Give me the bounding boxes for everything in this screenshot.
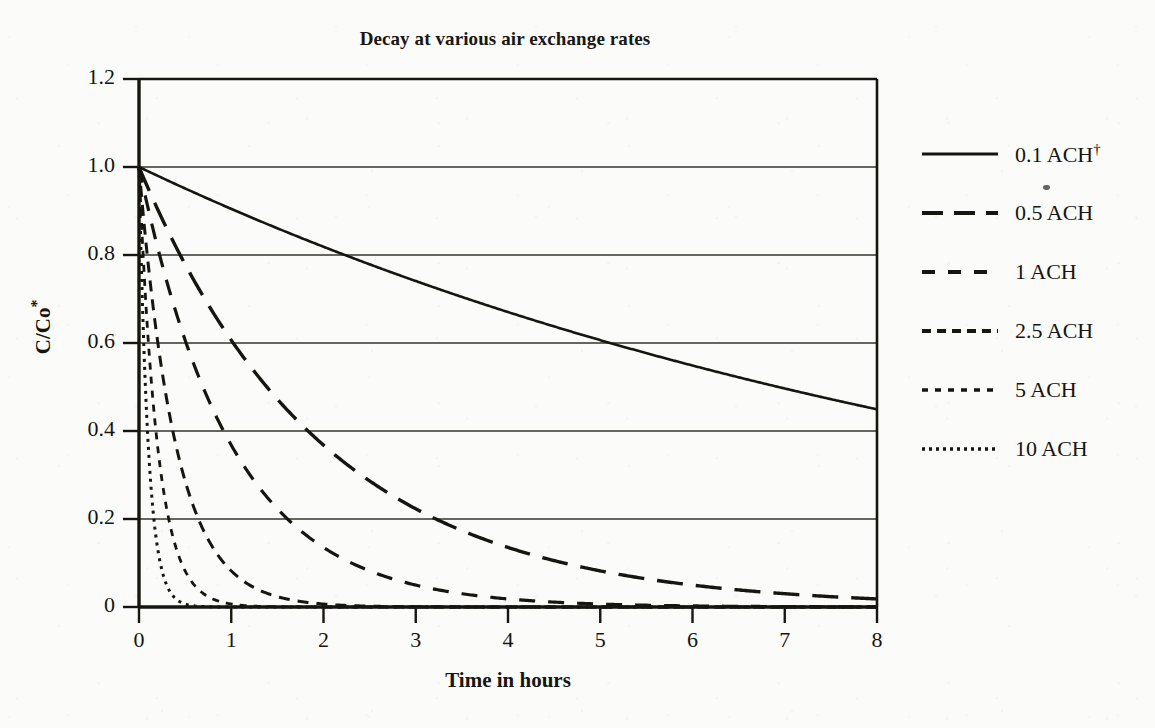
y-axis-tick-label: 1.2 — [45, 64, 115, 90]
legend-line-sample-2-5-ach — [922, 327, 998, 335]
decay-curve-5-ach — [139, 167, 877, 607]
y-tick-marks-group — [123, 79, 139, 607]
legend-line-sample-1-ach — [922, 268, 998, 276]
y-axis-tick-label: 0 — [45, 592, 115, 618]
x-axis-tick-label: 0 — [119, 627, 159, 653]
decay-curve-10-ach — [139, 167, 877, 607]
legend-item-label: 10 ACH — [1015, 436, 1088, 462]
legend-item-dagger: † — [1093, 141, 1100, 157]
legend-item[interactable]: 5 ACH — [915, 372, 1150, 431]
x-tick-marks-group — [139, 607, 877, 623]
legend-item[interactable]: 2.5 ACH — [915, 313, 1150, 372]
legend-item[interactable]: 10 ACH — [915, 431, 1150, 490]
y-axis-tick-label: 0.4 — [45, 416, 115, 442]
y-axis-title-superscript: * — [28, 300, 45, 308]
x-axis-tick-label: 6 — [673, 627, 713, 653]
legend-item-label: 0.5 ACH — [1015, 200, 1093, 226]
legend-line-sample-0-5-ach — [922, 209, 998, 217]
legend-line-sample-10-ach — [922, 445, 998, 453]
legend-item-label: 5 ACH — [1015, 377, 1077, 403]
decay-curves-group — [139, 167, 877, 607]
y-axis-title: C/Co* — [28, 257, 56, 397]
legend-item[interactable]: 1 ACH — [915, 254, 1150, 313]
decay-curve-1-ach — [139, 167, 877, 607]
x-axis-tick-label: 2 — [304, 627, 344, 653]
legend-line-sample-0-1-ach — [922, 150, 998, 158]
chart-legend: 0.1 ACH†0.5 ACH1 ACH2.5 ACH5 ACH10 ACH — [915, 136, 1150, 490]
chart-page: Decay at various air exchange rates 1.21… — [0, 0, 1155, 728]
x-axis-tick-label: 7 — [765, 627, 805, 653]
x-axis-tick-label: 1 — [211, 627, 251, 653]
legend-item[interactable]: 0.1 ACH† — [915, 136, 1150, 195]
decay-curve-0.1-ach — [139, 167, 877, 409]
x-axis-tick-label: 5 — [580, 627, 620, 653]
legend-item-label: 0.1 ACH† — [1015, 141, 1101, 168]
y-axis-title-text: C/Co — [31, 308, 55, 355]
x-axis-title: Time in hours — [139, 668, 877, 693]
legend-line-sample-5-ach — [922, 386, 998, 394]
x-axis-tick-label: 8 — [857, 627, 897, 653]
x-axis-tick-label: 4 — [488, 627, 528, 653]
legend-item-label: 1 ACH — [1015, 259, 1077, 285]
legend-item-label: 2.5 ACH — [1015, 318, 1093, 344]
decay-curve-2.5-ach — [139, 167, 877, 607]
gridlines-group — [139, 167, 877, 519]
y-axis-tick-label: 1.0 — [45, 152, 115, 178]
x-axis-tick-label: 3 — [396, 627, 436, 653]
legend-item[interactable]: 0.5 ACH — [915, 195, 1150, 254]
y-axis-tick-label: 0.2 — [45, 504, 115, 530]
